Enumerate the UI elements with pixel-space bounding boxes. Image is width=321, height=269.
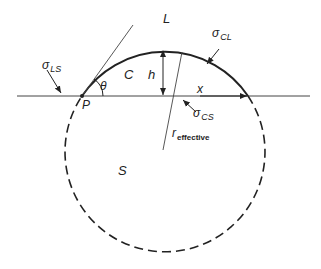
- liquid-label: L: [163, 11, 170, 26]
- sigma-ls-symbol: σ: [42, 58, 50, 72]
- crystal-label: C: [124, 67, 134, 82]
- sigma-cl-symbol: σ: [212, 26, 220, 40]
- sigma-ls-label: σLS: [42, 58, 61, 74]
- radius-label: reffective: [172, 126, 210, 142]
- sigma-cs-symbol: σ: [193, 106, 201, 120]
- substrate-dashed-circle: [65, 96, 265, 252]
- sigma-cl-arrow: [207, 49, 219, 64]
- sigma-cl-subscript: CL: [220, 32, 232, 42]
- nucleation-cap-diagram: L C S h x P θ σLS σCL σCS reffective: [0, 0, 321, 269]
- sigma-cl-label: σCL: [212, 26, 232, 42]
- substrate-label: S: [118, 163, 127, 178]
- sigma-cs-label: σCS: [193, 106, 214, 122]
- half-width-label: x: [196, 82, 204, 96]
- sigma-ls-subscript: LS: [50, 64, 61, 74]
- sigma-cs-subscript: CS: [201, 112, 214, 122]
- height-label: h: [148, 67, 155, 82]
- radius-subscript: effective: [177, 133, 210, 142]
- angle-label: θ: [100, 79, 107, 93]
- contact-point-label: P: [82, 98, 90, 112]
- crystal-cap-arc: [82, 52, 248, 96]
